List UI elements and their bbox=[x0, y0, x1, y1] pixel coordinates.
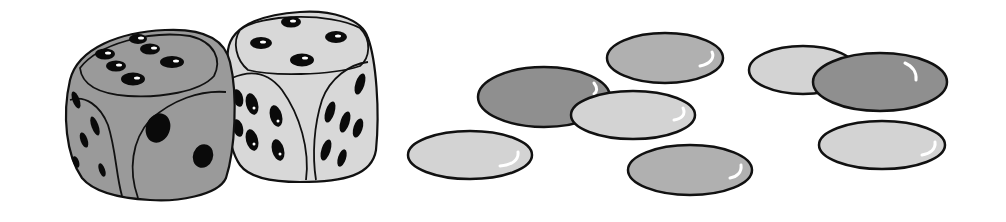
illustration-canvas bbox=[0, 0, 1006, 222]
counters bbox=[408, 33, 947, 195]
counter-5 bbox=[628, 145, 752, 195]
light-die bbox=[225, 12, 377, 182]
counter-4 bbox=[408, 131, 532, 179]
counter-1 bbox=[607, 33, 723, 83]
counter-7 bbox=[813, 53, 947, 111]
counter-8 bbox=[819, 121, 945, 169]
dark-die bbox=[66, 30, 235, 201]
dice-and-counters-illustration: Two dice and eight counters bbox=[0, 0, 1006, 222]
counter-3 bbox=[571, 91, 695, 139]
